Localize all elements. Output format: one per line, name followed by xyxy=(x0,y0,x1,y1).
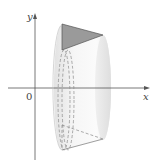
y-axis xyxy=(33,13,37,160)
origin-label: 0 xyxy=(26,91,32,102)
y-axis-label: y xyxy=(26,11,33,22)
right-end-cap xyxy=(95,35,111,140)
y-axis-arrow-icon xyxy=(33,13,37,19)
x-axis-label: x xyxy=(143,91,149,102)
x-axis-arrow-icon xyxy=(144,86,150,90)
solid-of-revolution-diagram: y x 0 xyxy=(0,0,156,165)
